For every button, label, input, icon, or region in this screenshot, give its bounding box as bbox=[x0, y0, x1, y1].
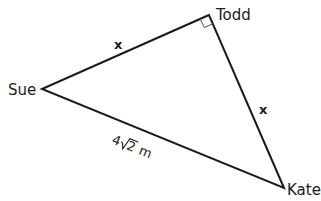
vertex-label-sue: Sue bbox=[8, 81, 36, 99]
triangle-diagram: Todd Sue Kate x x 4 2 m bbox=[0, 0, 321, 201]
svg-text:4: 4 bbox=[110, 132, 123, 149]
triangle bbox=[42, 15, 284, 188]
hypotenuse-coefficient: 4 bbox=[110, 132, 123, 149]
vertex-label-kate: Kate bbox=[287, 181, 321, 199]
hypotenuse-radicand: 2 bbox=[125, 138, 138, 155]
side-label-todd-kate: x bbox=[259, 102, 268, 117]
side-label-sue-todd: x bbox=[114, 37, 123, 52]
hypotenuse-unit: m bbox=[137, 143, 154, 162]
svg-text:2: 2 bbox=[125, 138, 138, 155]
vertex-label-todd: Todd bbox=[215, 6, 251, 24]
side-label-hypotenuse: 4 2 m bbox=[110, 132, 154, 162]
svg-text:m: m bbox=[137, 143, 154, 162]
